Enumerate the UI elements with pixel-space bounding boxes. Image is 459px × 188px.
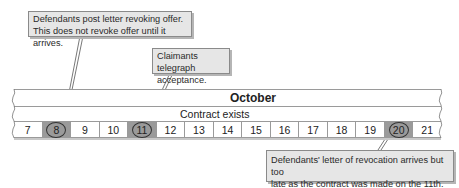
- circle-marker: 20: [389, 122, 409, 138]
- day-cell: 21: [413, 122, 441, 137]
- calendar-strip: October Contract exists 7 8 9 10 11 12 1…: [14, 89, 441, 138]
- torn-edge-right: [438, 89, 444, 138]
- callout-post-letter: Defendants post letter revoking offer. T…: [28, 11, 192, 37]
- day-cell: 7: [14, 122, 43, 137]
- contract-row: Contract exists: [14, 106, 441, 121]
- days-row: 7 8 9 10 11 12 13 14 15 16 17 18 19 20 2…: [14, 121, 441, 138]
- day-cell: 19: [356, 122, 385, 137]
- day-cell-highlighted: 8: [43, 122, 72, 137]
- day-cell: 10: [100, 122, 129, 137]
- month-label: October: [230, 91, 276, 105]
- day-cell: 14: [214, 122, 243, 137]
- day-cell: 15: [242, 122, 271, 137]
- torn-edge-left: [11, 89, 17, 138]
- month-row: October: [14, 89, 441, 106]
- day-cell: 13: [185, 122, 214, 137]
- day-cell: 12: [157, 122, 186, 137]
- day-cell-highlighted: 11: [128, 122, 157, 137]
- circle-marker: 11: [132, 122, 152, 138]
- callout-revocation-arrives: Defendants' letter of revocation arrives…: [266, 150, 454, 182]
- circle-marker: 8: [46, 122, 66, 138]
- day-cell: 9: [71, 122, 100, 137]
- day-cell-highlighted: 20: [385, 122, 414, 137]
- day-cell: 16: [271, 122, 300, 137]
- callout-telegraph: Claimants telegraph acceptance.: [152, 48, 230, 74]
- day-cell: 18: [328, 122, 357, 137]
- day-cell: 17: [299, 122, 328, 137]
- contract-exists-label: Contract exists: [180, 108, 249, 120]
